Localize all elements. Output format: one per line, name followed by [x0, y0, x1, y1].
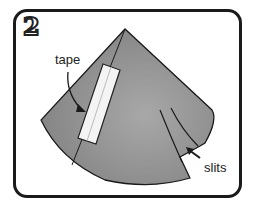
slits-label: slits [204, 160, 226, 175]
cone-illustration [0, 0, 262, 212]
tape-label: tape [55, 52, 80, 67]
